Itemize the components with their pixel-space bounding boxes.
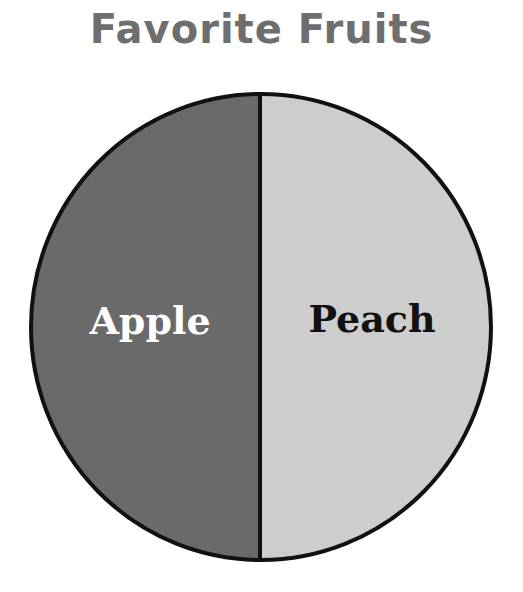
pie-chart: Apple Peach	[0, 0, 523, 592]
slice-label-apple: Apple	[88, 298, 210, 343]
slice-label-peach: Peach	[308, 296, 435, 341]
